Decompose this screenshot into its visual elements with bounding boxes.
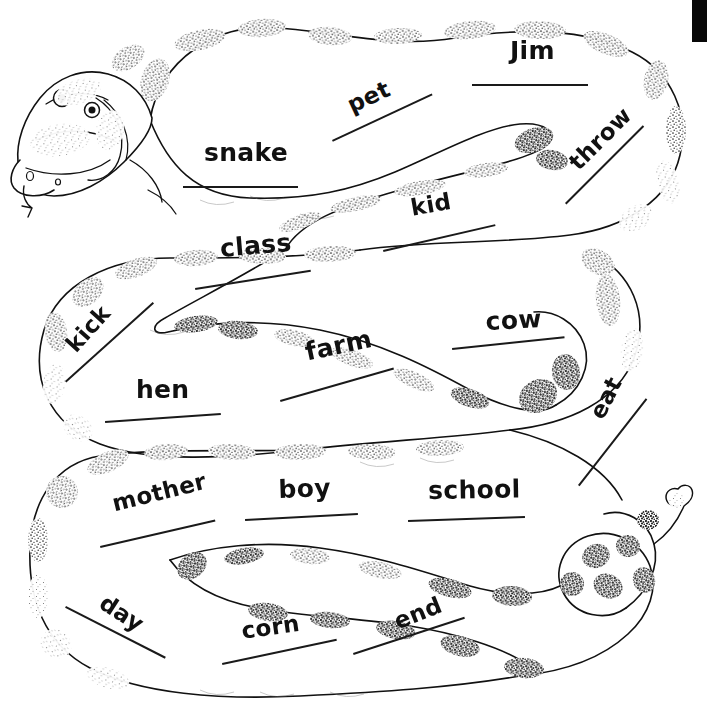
word-text: cow — [485, 306, 542, 334]
scan-edge-artifact — [692, 0, 707, 42]
word-label-boy: boy — [278, 475, 331, 502]
word-label-school: school — [428, 476, 521, 503]
answer-rule[interactable] — [472, 84, 588, 86]
word-label-cow: cow — [485, 306, 542, 334]
word-text: boy — [278, 475, 331, 502]
word-text: school — [428, 476, 521, 503]
word-label-class: class — [219, 230, 292, 261]
word-text: hen — [136, 377, 189, 402]
word-text: class — [219, 230, 292, 261]
worksheet-page: snakepetJimthrowkidclasskickfarmcowhenea… — [0, 0, 707, 726]
answer-line-jim[interactable] — [472, 84, 588, 86]
answer-rule[interactable] — [183, 186, 298, 188]
word-label-jim: Jim — [510, 38, 555, 63]
word-label-hen: hen — [136, 377, 189, 402]
word-text: snake — [204, 140, 288, 165]
answer-line-snake[interactable] — [183, 186, 298, 188]
word-label-snake: snake — [204, 140, 288, 165]
word-text: Jim — [510, 38, 555, 63]
